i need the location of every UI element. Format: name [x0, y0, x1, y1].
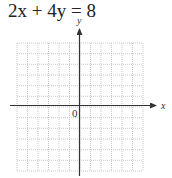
- origin-label: 0: [72, 107, 78, 119]
- y-axis-label: y: [76, 15, 82, 26]
- x-axis-label: x: [160, 100, 166, 111]
- coordinate-grid: x y 0: [0, 0, 172, 178]
